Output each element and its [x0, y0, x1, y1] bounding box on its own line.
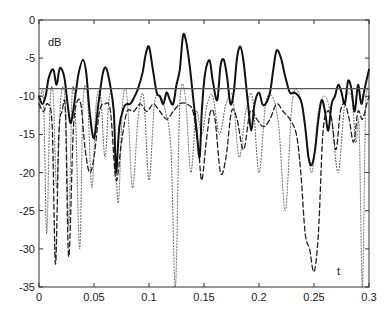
y-axis-label: dB	[48, 36, 61, 48]
x-axis-label: t	[337, 265, 340, 277]
y-tick-label: -25	[19, 205, 35, 217]
x-tick-label: 0.1	[141, 291, 156, 303]
y-tick-label: -35	[19, 281, 35, 293]
x-tick-label: 0	[36, 291, 42, 303]
y-tick-label: -30	[19, 243, 35, 255]
y-tick-label: 0	[29, 14, 35, 26]
x-tick-label: 0.2	[251, 291, 266, 303]
y-tick-label: -10	[19, 90, 35, 102]
y-tick-label: -5	[25, 52, 35, 64]
plot-area	[39, 20, 369, 287]
y-tick-label: -15	[19, 128, 35, 140]
chart: 00.050.10.150.20.250.3 0-5-10-15-20-25-3…	[0, 0, 389, 315]
x-tick-label: 0.05	[83, 291, 104, 303]
y-tick-label: -20	[19, 167, 35, 179]
plot-frame	[39, 20, 369, 287]
x-tick-label: 0.15	[193, 291, 214, 303]
x-tick-label: 0.25	[303, 291, 324, 303]
x-tick-label: 0.3	[361, 291, 376, 303]
